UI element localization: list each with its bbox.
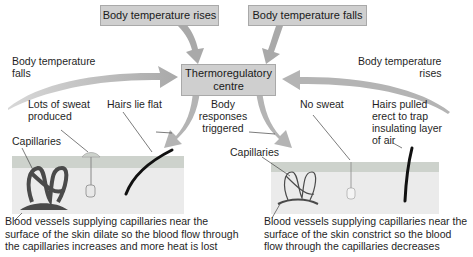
left-skin-section bbox=[12, 150, 184, 214]
thermoregulatory-centre-box: Thermoregulatory centre bbox=[181, 64, 276, 96]
lots-of-sweat-label: Lots of sweat produced bbox=[28, 98, 90, 122]
arrow-centre-to-left-skin bbox=[164, 90, 200, 148]
hairs-lie-flat-label: Hairs lie flat bbox=[107, 98, 162, 110]
left-caption: Blood vessels supplying capillaries near… bbox=[5, 215, 238, 253]
arrow-falls-to-centre bbox=[262, 26, 283, 64]
no-sweat-label: No sweat bbox=[300, 98, 344, 110]
left-capillaries-label: Capillaries bbox=[12, 135, 61, 147]
left-feedback-label: Body temperature falls bbox=[12, 55, 95, 79]
body-temperature-rises-box: Body temperature rises bbox=[100, 5, 219, 26]
body-responses-label: Body responses triggered bbox=[198, 98, 248, 134]
right-feedback-label: Body temperature rises bbox=[358, 55, 441, 79]
arrow-rises-to-centre bbox=[178, 24, 204, 64]
body-temperature-falls-box: Body temperature falls bbox=[248, 5, 367, 26]
right-caption: Blood vessels supplying capillaries near… bbox=[264, 215, 467, 253]
box-label: Body temperature falls bbox=[252, 9, 362, 22]
right-capillaries-label: Capillaries bbox=[230, 146, 279, 158]
box-label-line2: centre bbox=[213, 80, 244, 93]
hairs-pulled-erect-label: Hairs pulled erect to trap insulating la… bbox=[372, 98, 442, 146]
box-label: Body temperature rises bbox=[103, 9, 217, 22]
arrow-centre-to-right-skin bbox=[256, 90, 292, 148]
box-label-line1: Thermoregulatory bbox=[185, 67, 272, 80]
right-skin-section bbox=[271, 148, 439, 214]
